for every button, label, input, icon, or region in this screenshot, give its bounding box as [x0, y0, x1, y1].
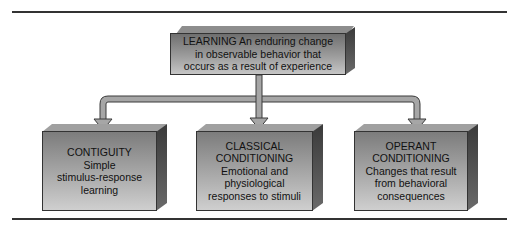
contiguity-title: CONTIGUITY — [57, 146, 142, 159]
classical-line-3: Emotional and — [208, 165, 301, 178]
contiguity-line-3: stimulus-response — [57, 171, 142, 184]
learning-definition: LEARNING An enduring change in observabl… — [183, 35, 333, 73]
contiguity-text: CONTIGUITY Simple stimulus-response lear… — [57, 146, 142, 196]
operant-conditioning-text: OPERANT CONDITIONING Changes that result… — [365, 140, 456, 203]
operant-title-2: CONDITIONING — [365, 152, 456, 165]
classical-title-1: CLASSICAL — [208, 140, 301, 153]
learning-line-2: in observable behavior that — [183, 48, 333, 61]
operant-line-4: from behavioral — [365, 177, 456, 190]
operant-conditioning-box-front: OPERANT CONDITIONING Changes that result… — [354, 131, 468, 211]
contiguity-line-2: Simple — [57, 159, 142, 172]
classical-conditioning-text: CLASSICAL CONDITIONING Emotional and phy… — [208, 140, 301, 203]
operant-line-3: Changes that result — [365, 165, 456, 178]
box-side-face — [156, 124, 167, 211]
box-side-face — [467, 124, 478, 211]
operant-line-5: consequences — [365, 190, 456, 203]
classical-title-2: CONDITIONING — [208, 152, 301, 165]
learning-line-3: occurs as a result of experience — [183, 60, 333, 73]
classical-line-5: responses to stimuli — [208, 190, 301, 203]
bottom-rule — [12, 218, 507, 220]
learning-box-front: LEARNING An enduring change in observabl… — [170, 33, 346, 75]
box-side-face — [345, 27, 355, 75]
contiguity-box-front: CONTIGUITY Simple stimulus-response lear… — [42, 131, 157, 211]
classical-line-4: physiological — [208, 177, 301, 190]
learning-line-1: LEARNING An enduring change — [183, 35, 333, 48]
operant-title-1: OPERANT — [365, 140, 456, 153]
contiguity-line-4: learning — [57, 184, 142, 197]
classical-conditioning-box-front: CLASSICAL CONDITIONING Emotional and phy… — [196, 131, 313, 211]
box-side-face — [312, 124, 323, 211]
